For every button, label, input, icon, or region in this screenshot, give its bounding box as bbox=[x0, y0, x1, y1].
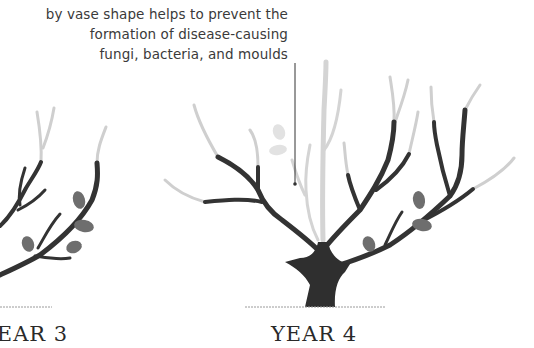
year3-tree bbox=[0, 108, 106, 275]
annotation-pointer-dot bbox=[293, 182, 297, 186]
year3-label: YEAR 3 bbox=[0, 322, 68, 346]
year4-label: YEAR 4 bbox=[271, 322, 357, 346]
year4-tree bbox=[165, 62, 514, 307]
year4-trunk bbox=[285, 242, 350, 307]
tree-illustration bbox=[0, 0, 534, 348]
